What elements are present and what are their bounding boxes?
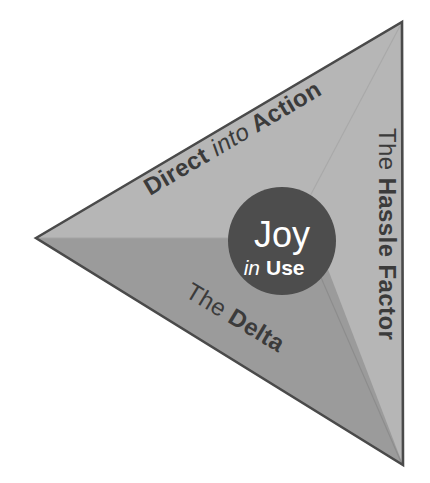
core-label-in-use-group: in Use	[244, 256, 305, 279]
core-label-in: in	[244, 256, 260, 279]
core-label-use: Use	[266, 256, 305, 279]
core-label-joy: Joy	[254, 214, 310, 255]
label-hassle-factor: Hassle Factor	[374, 178, 401, 341]
label-the-hassle: The	[374, 128, 401, 171]
svg-text:The Hassle Factor: The Hassle Factor	[374, 128, 401, 340]
joy-in-use-triangle-diagram: Direct into Action The Hassle Factor The…	[0, 0, 430, 483]
diagram-canvas: Direct into Action The Hassle Factor The…	[0, 0, 430, 483]
segment-label-the-hassle-factor[interactable]: The Hassle Factor	[374, 128, 401, 340]
